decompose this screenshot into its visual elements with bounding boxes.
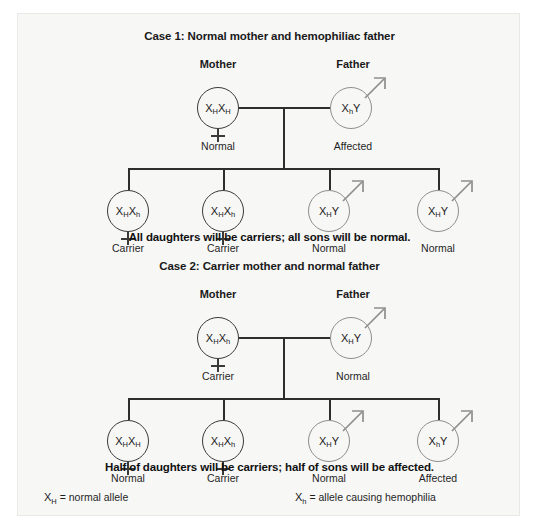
- male-circle-icon: XhY: [417, 420, 459, 462]
- case-2-offspring-2-genotype: XHXh: [211, 436, 235, 447]
- legend-normal-allele-symbol: XH: [44, 491, 57, 503]
- case-2-summary: Half of daughters will be carriers; half…: [18, 461, 520, 473]
- case-2-drop-2: [223, 398, 225, 420]
- case-1-summary: All daughters will be carriers; all sons…: [18, 231, 520, 243]
- case-2-group: Case 2: Carrier mother and normal father…: [18, 244, 520, 479]
- legend-hemophilia-allele-symbol: Xh: [295, 491, 307, 503]
- case-1-drop-4: [438, 168, 440, 190]
- case-1-father-status: Affected: [293, 140, 413, 152]
- case-2-mother-label: Mother: [158, 288, 278, 300]
- case-2-offspring-2-status: Carrier: [163, 472, 283, 484]
- male-circle-icon: XHY: [308, 190, 350, 232]
- legend-normal-allele-text: = normal allele: [57, 491, 129, 503]
- case-1-mother-genotype: XHXH: [205, 103, 231, 114]
- case-2-mother-status: Carrier: [158, 370, 278, 382]
- case-1-offspring-3-genotype: XHY: [319, 206, 339, 217]
- case-2-drop-3: [329, 398, 331, 420]
- case-1-descent-line: [283, 107, 285, 169]
- case-2-offspring-1-genotype: XHXH: [115, 436, 141, 447]
- case-1-offspring-1-genotype: XHXh: [116, 206, 140, 217]
- case-1-title: Case 1: Normal mother and hemophiliac fa…: [18, 30, 520, 42]
- case-2-father-status: Normal: [293, 370, 413, 382]
- case-1-father-label: Father: [293, 58, 413, 70]
- case-1-mother-status: Normal: [158, 140, 278, 152]
- case-1-drop-3: [329, 168, 331, 190]
- case-2-offspring-4-status: Affected: [378, 472, 498, 484]
- case-2-drop-4: [438, 398, 440, 420]
- female-circle-icon: XHXh: [107, 190, 149, 232]
- case-2-father-genotype: XHY: [341, 333, 361, 344]
- venus-crossbar-icon: [211, 365, 225, 367]
- case-2-offspring-3-status: Normal: [269, 472, 389, 484]
- pedigree-figure-panel: Case 1: Normal mother and hemophiliac fa…: [17, 13, 520, 516]
- case-1-group: Case 1: Normal mother and hemophiliac fa…: [18, 14, 520, 249]
- case-1-sibship-bar: [128, 168, 439, 170]
- case-2-title: Case 2: Carrier mother and normal father: [18, 260, 520, 272]
- case-1-drop-2: [223, 168, 225, 190]
- case-1-offspring-2-genotype: XHXh: [211, 206, 235, 217]
- legend-hemophilia-allele-text: = allele causing hemophilia: [307, 491, 436, 503]
- case-1-father-genotype: XhY: [342, 103, 361, 114]
- legend-normal-allele: XH = normal allele: [44, 491, 128, 503]
- female-circle-icon: XHXH: [197, 87, 239, 129]
- male-circle-icon: XhY: [330, 87, 372, 129]
- male-circle-icon: XHY: [417, 190, 459, 232]
- legend-hemophilia-allele: Xh = allele causing hemophilia: [295, 491, 436, 503]
- case-2-offspring-4-genotype: XhY: [429, 436, 448, 447]
- case-2-drop-1: [128, 398, 130, 420]
- female-circle-icon: XHXh: [197, 317, 239, 359]
- female-circle-icon: XHXH: [107, 420, 149, 462]
- male-circle-icon: XHY: [308, 420, 350, 462]
- case-1-drop-1: [128, 168, 130, 190]
- case-1-offspring-4-genotype: XHY: [428, 206, 448, 217]
- female-circle-icon: XHXh: [202, 190, 244, 232]
- case-2-mother-genotype: XHXh: [206, 333, 230, 344]
- case-2-father-label: Father: [293, 288, 413, 300]
- case-2-descent-line: [283, 337, 285, 399]
- case-2-offspring-3-genotype: XHY: [319, 436, 339, 447]
- male-circle-icon: XHY: [330, 317, 372, 359]
- case-2-sibship-bar: [128, 398, 439, 400]
- venus-crossbar-icon: [211, 135, 225, 137]
- female-circle-icon: XHXh: [202, 420, 244, 462]
- case-1-mother-label: Mother: [158, 58, 278, 70]
